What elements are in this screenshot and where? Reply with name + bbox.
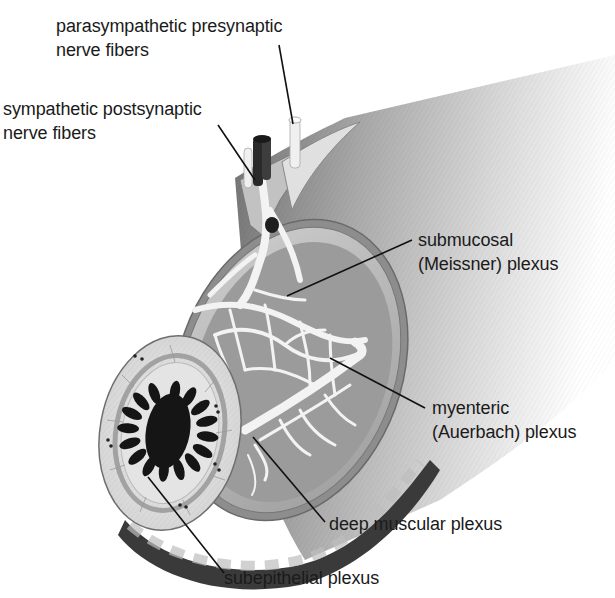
diagram-canvas: parasympathetic presynaptic nerve fibers… <box>0 0 615 598</box>
gut-wall-illustration <box>0 0 615 598</box>
label-line: sympathetic postsynaptic <box>3 97 202 121</box>
label-sympathetic-postsynaptic: sympathetic postsynaptic nerve fibers <box>3 97 202 145</box>
label-parasympathetic-presynaptic: parasympathetic presynaptic nerve fibers <box>56 14 282 62</box>
label-line: subepithelial plexus <box>224 566 379 590</box>
label-line: nerve fibers <box>3 121 202 145</box>
label-myenteric-plexus: myenteric (Auerbach) plexus <box>432 396 576 444</box>
label-subepithelial-plexus: subepithelial plexus <box>224 566 379 590</box>
label-line: parasympathetic presynaptic <box>56 14 282 38</box>
label-line: myenteric <box>432 396 576 420</box>
label-line: nerve fibers <box>56 38 282 62</box>
label-line: (Auerbach) plexus <box>432 420 576 444</box>
label-line: (Meissner) plexus <box>418 252 558 276</box>
label-deep-muscular-plexus: deep muscular plexus <box>329 512 502 536</box>
label-line: deep muscular plexus <box>329 512 502 536</box>
label-submucosal-plexus: submucosal (Meissner) plexus <box>418 228 558 276</box>
label-line: submucosal <box>418 228 558 252</box>
